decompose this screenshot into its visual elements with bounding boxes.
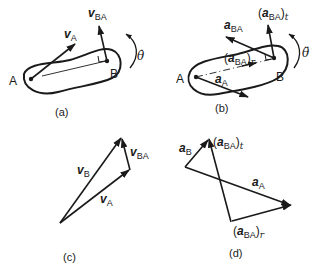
- label-theta-dot: θ̇: [137, 49, 145, 63]
- vector-a-ba-t: [209, 139, 231, 222]
- vector-v-ba: [99, 26, 107, 61]
- kinematics-figure: A B vA vBA θ̇ (a) A B aA aBA (aBA)t: [0, 0, 322, 272]
- label-a-ba: aBA: [224, 18, 243, 34]
- panel-a: A B vA vBA θ̇ (a): [9, 6, 145, 118]
- label-a-ba-t: (aBA)t: [213, 135, 244, 151]
- vector-a-ba-r: [232, 205, 291, 221]
- label-v-b: vB: [77, 163, 90, 179]
- label-v-a: vA: [100, 192, 113, 208]
- panel-c: vB vA vBA (c): [60, 138, 149, 263]
- label-a-b: aB: [179, 141, 192, 157]
- angular-velocity-arc: [126, 34, 136, 68]
- vector-v-a: [60, 170, 129, 223]
- label-v-ba: vBA: [88, 6, 107, 22]
- panel-d: aB aA (aBA)t (aBA)r (d): [179, 135, 291, 259]
- label-theta-ddot: θ̈: [302, 46, 310, 60]
- vector-a-a: [185, 167, 290, 205]
- label-v-a: vA: [64, 27, 77, 43]
- label-a-a: aA: [215, 72, 228, 88]
- label-point-b: B: [110, 67, 118, 81]
- label-a-ba-t: (aBA)t: [258, 6, 289, 22]
- label-a-ba-r: (aBA)r: [233, 224, 265, 240]
- label-v-ba: vBA: [130, 145, 149, 161]
- caption-d: (d): [229, 247, 242, 259]
- angular-acceleration-arc: [289, 34, 300, 68]
- label-point-a: A: [9, 74, 17, 88]
- caption-a: (a): [55, 106, 68, 118]
- label-point-a: A: [176, 72, 184, 86]
- caption-c: (c): [63, 251, 76, 263]
- vector-v-b: [60, 138, 121, 223]
- figure-canvas: A B vA vBA θ̇ (a) A B aA aBA (aBA)t: [0, 0, 322, 272]
- label-a-a: aA: [252, 175, 265, 191]
- caption-b: (b): [215, 102, 228, 114]
- vector-v-ba: [122, 139, 130, 170]
- right-angle-mark: [98, 56, 105, 62]
- label-point-b: B: [276, 70, 284, 84]
- vector-a-ba-t: [268, 25, 274, 58]
- panel-b: A B aA aBA (aBA)t (aBA)r θ̈ (b): [176, 6, 310, 114]
